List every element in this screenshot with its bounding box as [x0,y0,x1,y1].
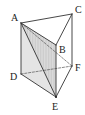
vertex-label-a: A [11,12,19,23]
solid-edge-ef [56,66,72,97]
vertex-label-f: F [75,62,81,73]
vertex-label-b: B [59,44,66,55]
solid-edge-cb [56,14,72,45]
vertex-label-e: E [52,101,58,112]
vertex-label-d: D [10,71,17,82]
vertex-dot-e [55,96,57,98]
solid-edge-ac [21,14,72,23]
vertex-label-c: C [75,4,82,15]
prism-diagram: ABCDEF [0,0,85,115]
